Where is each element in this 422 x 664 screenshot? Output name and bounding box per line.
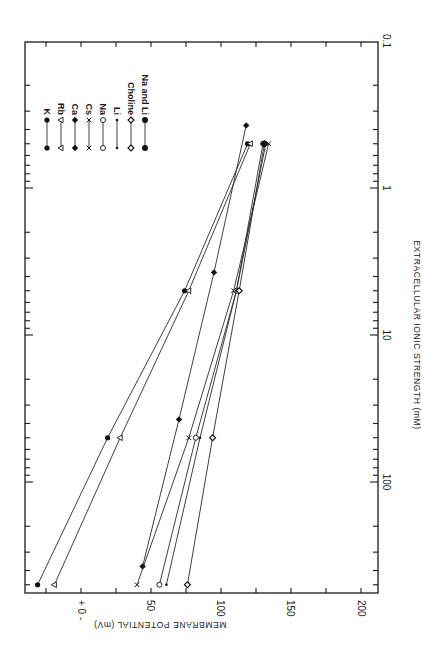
legend-item-li: Li bbox=[112, 107, 122, 149]
tick-label-100: 100 bbox=[215, 600, 226, 617]
data-point-li bbox=[199, 436, 202, 439]
legend-marker-na-and-li bbox=[142, 117, 148, 123]
legend-label-cs: Cs bbox=[84, 103, 94, 115]
legend: KRbCaCsNaLiCholineNa and Li bbox=[42, 74, 150, 151]
data-point-k bbox=[105, 435, 110, 440]
legend-item-cs: Cs bbox=[84, 103, 94, 150]
legend-label-li: Li bbox=[112, 107, 122, 115]
legend-marker-li bbox=[116, 147, 119, 150]
legend-item-na: Na bbox=[98, 103, 108, 150]
data-point-choline bbox=[184, 582, 190, 588]
data-point-li bbox=[165, 583, 168, 586]
legend-label-ca: Ca bbox=[70, 103, 80, 115]
legend-marker-ca bbox=[72, 117, 78, 123]
legend-marker-k bbox=[44, 145, 49, 150]
tick-label-200: 200 bbox=[356, 600, 367, 617]
legend-marker-na bbox=[101, 118, 106, 123]
legend-marker-rb bbox=[58, 145, 63, 151]
data-point-choline bbox=[210, 435, 216, 441]
plot-frame bbox=[25, 42, 378, 593]
data-point-rb bbox=[51, 582, 56, 588]
data-series bbox=[35, 122, 271, 588]
tick-label-zero: + 0 - bbox=[76, 600, 87, 620]
legend-marker-k bbox=[44, 117, 49, 122]
x-axis-title: EXTRACELLULAR IONIC STRENGTH (mM) bbox=[412, 240, 422, 429]
legend-marker-na bbox=[101, 146, 106, 151]
legend-marker-ca bbox=[72, 145, 78, 151]
ionic-strength-tick-labels: 0.1 1 10 100 bbox=[381, 34, 392, 491]
legend-marker-choline bbox=[128, 117, 134, 123]
series-line-rb bbox=[54, 144, 250, 585]
data-point-na bbox=[157, 582, 162, 587]
series-line-choline bbox=[187, 144, 264, 585]
legend-item-ca: Ca bbox=[70, 103, 80, 151]
legend-marker-rb bbox=[58, 117, 63, 123]
data-point-na-and-li bbox=[261, 141, 267, 147]
legend-item-rb: Rb bbox=[56, 103, 66, 151]
potential-tick-labels: + 0 - 50 100 150 200 bbox=[76, 600, 367, 620]
legend-item-na-and-li: Na and Li bbox=[140, 74, 150, 151]
data-point-ca bbox=[176, 416, 182, 422]
series-line-cs bbox=[137, 144, 269, 585]
data-point-cs bbox=[135, 582, 140, 587]
legend-label-k: K bbox=[42, 109, 52, 116]
tick-label-150: 150 bbox=[285, 600, 296, 617]
tick-label-10: 10 bbox=[381, 329, 392, 341]
tick-label-0-1: 0.1 bbox=[381, 34, 392, 48]
data-point-k bbox=[35, 582, 40, 587]
legend-marker-choline bbox=[128, 145, 134, 151]
y-axis-title: MEMBRANE POTENTIAL (mV) bbox=[94, 620, 227, 630]
legend-label-rb: Rb bbox=[56, 103, 66, 115]
legend-label-na-and-li: Na and Li bbox=[140, 74, 150, 115]
data-point-na bbox=[193, 435, 198, 440]
legend-item-choline: Choline bbox=[126, 82, 136, 151]
legend-marker-na-and-li bbox=[142, 145, 148, 151]
legend-label-na: Na bbox=[98, 103, 108, 115]
tick-label-50: 50 bbox=[145, 600, 156, 612]
tick-label-100: 100 bbox=[381, 474, 392, 491]
tick-label-1: 1 bbox=[381, 185, 392, 191]
ionic-strength-axis-ticks bbox=[25, 85, 378, 584]
legend-item-k: K bbox=[42, 109, 52, 151]
data-point-ca bbox=[211, 269, 217, 275]
membrane-potential-chart: + 0 - 50 100 150 200 0.1 1 10 100 EXTRAC… bbox=[0, 0, 422, 664]
data-point-ca bbox=[243, 122, 249, 128]
legend-marker-li bbox=[116, 119, 119, 122]
legend-label-choline: Choline bbox=[126, 82, 136, 115]
data-point-cs bbox=[187, 435, 192, 440]
